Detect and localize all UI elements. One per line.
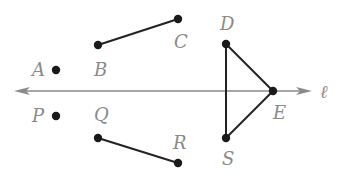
point-s-dot [222,134,230,142]
point-r-dot [174,159,182,167]
point-a-label: A [30,59,45,80]
point-r: R [172,132,187,167]
point-q: Q [94,104,109,142]
point-e-label: E [272,102,286,123]
point-q-label: Q [94,104,109,125]
line-l-label: ℓ [320,81,328,102]
point-s: S [222,134,235,169]
point-c-dot [174,15,182,23]
point-q-dot [94,134,102,142]
geometry-diagram: ℓ ABCDESPQR [0,0,358,176]
line-l: ℓ [14,81,328,102]
point-e: E [269,87,286,123]
point-c: C [174,15,188,52]
point-p-dot [52,112,60,120]
point-d: D [219,13,235,48]
point-a-dot [52,66,60,74]
segment-bc [98,19,178,45]
point-e-dot [269,87,277,95]
point-b: B [93,41,107,80]
segment-de [226,44,273,91]
point-b-label: B [93,59,107,80]
point-r-label: R [172,132,187,153]
point-d-label: D [219,13,235,34]
point-s-label: S [222,148,234,169]
point-c-label: C [174,31,188,52]
point-p: P [31,105,60,126]
point-p-label: P [31,105,45,126]
segment-qr [98,138,178,163]
point-b-dot [94,41,102,49]
segment-es [226,91,273,138]
point-a: A [30,59,60,80]
point-d-dot [222,40,230,48]
